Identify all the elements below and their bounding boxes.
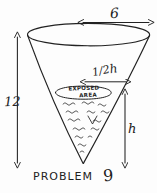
top-diameter-label: 6 <box>110 6 120 20</box>
water-squiggles <box>63 102 109 152</box>
problem-figure: 6 12 1/2h h EXPOSED AREA PROBLEM 9 <box>0 0 157 193</box>
exposed-area-line1: EXPOSED <box>68 84 99 91</box>
problem-caption: PROBLEM <box>33 170 93 183</box>
cone-height-label: 12 <box>4 95 21 109</box>
cone-right-side <box>83 36 149 164</box>
problem-number: 9 <box>102 166 113 186</box>
exposed-area-label: EXPOSED AREA <box>61 85 107 99</box>
water-depth-label: h <box>128 122 136 135</box>
half-h-fraction: 1/2 <box>91 64 111 78</box>
cone-rim-ellipse <box>28 23 150 45</box>
half-h-label: 1/2h <box>91 62 118 77</box>
